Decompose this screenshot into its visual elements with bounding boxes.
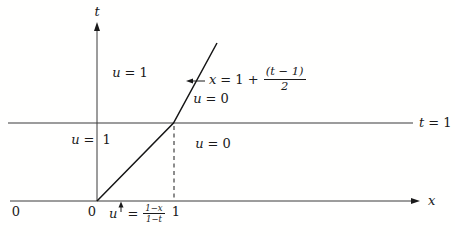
diagram-canvas	[0, 0, 455, 236]
fan-equation-fraction: 1−x 1−t	[143, 203, 164, 224]
left-arrow-icon	[186, 79, 193, 84]
region-label-upper-left: u = 1	[112, 66, 148, 79]
shock-equation-fraction: (t − 1) 2	[264, 65, 306, 94]
t-axis-label: t	[94, 5, 99, 18]
tick-left-zero: 0	[12, 205, 20, 218]
region-label-lower-right: u = 0	[195, 137, 231, 150]
fan-equation-label: u = 1−x 1−t	[109, 204, 165, 223]
tick-one: 1	[172, 205, 180, 218]
shock-equation-label: x = 1 + (t − 1) 2	[209, 64, 306, 94]
t-axis-arrow-icon	[94, 22, 100, 31]
t-equals-1-label: t = 1	[419, 116, 452, 129]
x-axis-arrow-icon	[411, 198, 420, 204]
x-axis-label: x	[428, 194, 435, 207]
characteristics-diagram: t x t = 1 u = 1 u = 0 u = 1 u = 0 x = 1 …	[0, 0, 455, 236]
region-label-lower-left: u = 1	[71, 133, 111, 146]
tick-origin-zero: 0	[88, 205, 96, 218]
